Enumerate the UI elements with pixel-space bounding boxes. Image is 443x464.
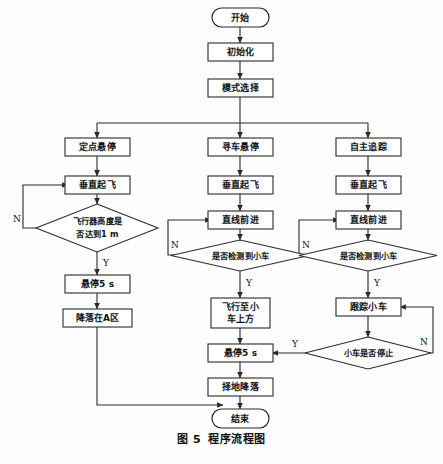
edge-label-b-no: N — [171, 240, 179, 250]
node-branch-c-decision[interactable]: 是否检测到小车 — [299, 240, 437, 271]
node-branch-b-flyover[interactable]: 飞行至小 车上方 — [211, 298, 270, 328]
node-branch-a-hover[interactable]: 悬停5 s — [65, 275, 130, 293]
node-branch-b-forward[interactable]: 直线前进 — [208, 211, 273, 229]
node-branch-c-mode[interactable]: 自主追踪 — [336, 138, 401, 156]
node-branch-b-land-label: 择地降落 — [222, 381, 260, 392]
node-branch-c-takeoff[interactable]: 垂直起飞 — [336, 176, 401, 194]
edge-label-a-no: N — [13, 214, 21, 224]
edge-label-c-stop-yes: Y — [291, 339, 299, 349]
node-branch-c-takeoff-label: 垂直起飞 — [350, 179, 387, 190]
node-branch-b-decision-label: 是否检测到小车 — [211, 251, 269, 261]
node-branch-a-hover-label: 悬停5 s — [80, 278, 115, 289]
node-branch-b-land[interactable]: 择地降落 — [208, 378, 273, 396]
program-flowchart-diagram: 开始 初始化 模式选择 定点悬停 垂直起飞 飞行器高度是 否达到1 m 悬停 — [0, 0, 443, 430]
node-branch-c-stop-decision-label: 小车是否停止 — [343, 348, 393, 358]
node-branch-b-decision[interactable]: 是否检测到小车 — [171, 240, 309, 271]
node-branch-b-mode[interactable]: 寻车悬停 — [208, 138, 273, 156]
node-branch-c-track[interactable]: 跟踪小车 — [336, 298, 401, 316]
node-branch-b-hover[interactable]: 悬停5 s — [208, 344, 273, 362]
edge-label-c-yes: Y — [373, 278, 381, 288]
node-branch-c-forward-label: 直线前进 — [350, 214, 387, 225]
figure-caption-title: 程序流程图 — [208, 433, 266, 446]
figure-caption-number: 图 5 — [177, 433, 201, 446]
node-branch-b-flyover-label-line2: 车上方 — [227, 313, 255, 324]
node-start-label: 开始 — [231, 12, 249, 23]
node-branch-c-decision-label: 是否检测到小车 — [339, 251, 397, 261]
node-branch-c-track-label: 跟踪小车 — [350, 301, 387, 312]
node-branch-a-land-label: 降落在A区 — [76, 312, 120, 323]
edge-label-c-no: N — [302, 240, 310, 250]
node-mode-select-label: 模式选择 — [222, 82, 260, 93]
node-end-label: 结束 — [231, 413, 250, 424]
node-branch-a-land[interactable]: 降落在A区 — [63, 309, 132, 327]
node-branch-a-decision-label-line2: 否达到1 m — [75, 229, 118, 239]
node-branch-b-takeoff[interactable]: 垂直起飞 — [208, 176, 273, 194]
node-branch-a-takeoff[interactable]: 垂直起飞 — [65, 176, 130, 194]
node-branch-b-takeoff-label: 垂直起飞 — [222, 179, 259, 190]
node-branch-a-decision[interactable]: 飞行器高度是 否达到1 m — [36, 204, 158, 252]
node-end[interactable]: 结束 — [212, 409, 269, 428]
node-branch-b-flyover-label-line1: 飞行至小 — [222, 301, 259, 312]
edge-label-c-stop-no: N — [420, 337, 428, 347]
node-init-label: 初始化 — [227, 46, 255, 57]
node-branch-a-mode-label: 定点悬停 — [78, 141, 116, 152]
flowchart-figure: 开始 初始化 模式选择 定点悬停 垂直起飞 飞行器高度是 否达到1 m 悬停 — [0, 0, 443, 464]
node-branch-b-forward-label: 直线前进 — [222, 214, 259, 225]
edge-label-b-yes: Y — [245, 278, 253, 288]
edge-label-a-yes: Y — [102, 258, 110, 268]
node-branch-b-mode-label: 寻车悬停 — [222, 141, 259, 152]
node-mode-select[interactable]: 模式选择 — [208, 79, 273, 97]
edge-a-land-to-end — [97, 327, 223, 405]
node-init[interactable]: 初始化 — [208, 43, 273, 61]
node-branch-a-takeoff-label: 垂直起飞 — [79, 179, 116, 190]
node-branch-a-mode[interactable]: 定点悬停 — [65, 138, 130, 156]
node-branch-c-forward[interactable]: 直线前进 — [336, 211, 401, 229]
node-branch-a-decision-label-line1: 飞行器高度是 — [73, 216, 123, 226]
node-start[interactable]: 开始 — [212, 8, 269, 27]
node-branch-c-stop-decision[interactable]: 小车是否停止 — [305, 337, 431, 369]
node-branch-c-mode-label: 自主追踪 — [350, 141, 387, 152]
node-branch-b-hover-label: 悬停5 s — [223, 347, 258, 358]
figure-caption: 图 5程序流程图 — [0, 430, 443, 446]
